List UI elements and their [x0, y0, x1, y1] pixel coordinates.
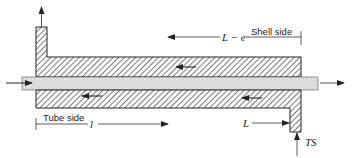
tube-length-dimension: Tube side l	[36, 112, 168, 130]
L-dimension: L	[242, 117, 289, 129]
shell-length-dimension: L − e Shell side	[168, 26, 301, 45]
shell-side-label: Shell side	[251, 26, 292, 37]
L-label: L	[242, 117, 249, 129]
tube-sheet-indicator: TS	[297, 133, 317, 156]
lower-shell-wall	[36, 90, 301, 132]
shell-length-label: L − e	[221, 31, 246, 43]
tube-sheet-label: TS	[305, 136, 317, 148]
tube-side-label: Tube side	[43, 112, 84, 123]
tube-length-label: l	[90, 118, 93, 130]
tube	[22, 77, 318, 90]
heat-exchanger-diagram: L − e Shell side Tube side l L TS	[0, 0, 352, 158]
